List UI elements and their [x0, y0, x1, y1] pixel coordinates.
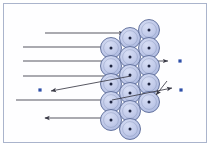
atom	[120, 28, 141, 49]
atom-center-dot	[110, 83, 113, 86]
particle-right-upper	[178, 59, 181, 62]
atom-center-dot	[148, 65, 151, 68]
scattering-diagram	[0, 0, 213, 148]
atom-center-dot	[129, 110, 132, 113]
atom-center-dot	[129, 37, 132, 40]
atom-center-dot	[110, 65, 113, 68]
atom-center-dot	[129, 56, 132, 59]
atom-center-dot	[129, 128, 132, 131]
particle-left	[38, 88, 41, 91]
atom-center-dot	[148, 83, 151, 86]
scattering-scene	[0, 0, 213, 148]
atom-center-dot	[110, 101, 113, 104]
atom-center-dot	[110, 47, 113, 50]
atom-center-dot	[148, 29, 151, 32]
atom-lattice-group	[101, 20, 160, 140]
atom-center-dot	[129, 92, 132, 95]
atom-center-dot	[148, 47, 151, 50]
particle-right-lower	[179, 88, 182, 91]
atom-center-dot	[148, 101, 151, 104]
atom-center-dot	[110, 119, 113, 122]
atom	[101, 110, 122, 131]
atom	[120, 119, 141, 140]
